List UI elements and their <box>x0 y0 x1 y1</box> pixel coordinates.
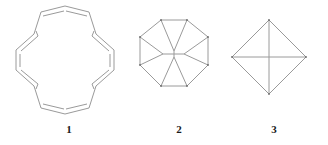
figure-1-caption: 1 <box>54 122 84 136</box>
octagon-center-hub <box>163 51 184 57</box>
annulene-bond-stubs <box>36 31 94 89</box>
figure-2-caption: 2 <box>164 122 194 136</box>
annulene-outer-ring <box>16 6 114 114</box>
figure-2-octagon-pinwheel <box>132 16 216 100</box>
figure-board: 1 2 3 <box>0 0 328 145</box>
diamond-diagonals <box>232 20 306 94</box>
annulene-inner-double-bond-lines <box>20 11 110 109</box>
figure-1-macrocyclic-annulene <box>6 4 124 116</box>
figure-3-caption: 3 <box>259 122 289 136</box>
figure-3-diamond-diagonals <box>228 16 310 100</box>
